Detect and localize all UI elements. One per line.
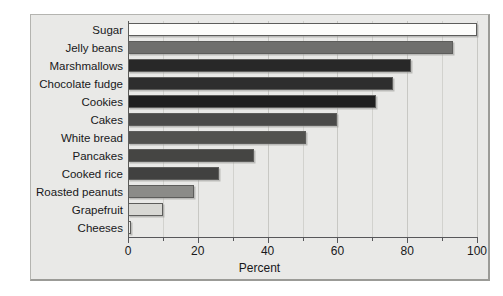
- x-tick-label: 80: [387, 244, 427, 258]
- category-label-white-bread: White bread: [0, 129, 123, 147]
- bar-row: [128, 165, 477, 183]
- x-tick-label: 0: [108, 244, 148, 258]
- x-tick-label: 100: [457, 244, 497, 258]
- category-label-marshmallows: Marshmallows: [0, 57, 123, 75]
- bar-row: [128, 75, 477, 93]
- x-tick-label: 60: [317, 244, 357, 258]
- x-tick-minor: [372, 237, 373, 241]
- bar-cookies: [128, 95, 376, 108]
- bar-row: [128, 93, 477, 111]
- bar-grapefruit: [128, 203, 163, 216]
- x-tick-major: [268, 237, 269, 243]
- category-label-chocolate-fudge: Chocolate fudge: [0, 75, 123, 93]
- gridline-major: [477, 21, 478, 237]
- x-tick-minor: [442, 237, 443, 241]
- category-label-cakes: Cakes: [0, 111, 123, 129]
- category-label-sugar: Sugar: [0, 21, 123, 39]
- plot-area: [128, 21, 477, 237]
- category-label-pancakes: Pancakes: [0, 147, 123, 165]
- category-label-cooked-rice: Cooked rice: [0, 165, 123, 183]
- x-tick-major: [128, 237, 129, 243]
- bar-chocolate-fudge: [128, 77, 393, 90]
- bar-row: [128, 147, 477, 165]
- bar-row: [128, 111, 477, 129]
- category-label-cheeses: Cheeses: [0, 219, 123, 237]
- bar-row: [128, 57, 477, 75]
- bar-row: [128, 201, 477, 219]
- x-tick-major: [477, 237, 478, 243]
- bar-row: [128, 21, 477, 39]
- x-tick-minor: [233, 237, 234, 241]
- x-tick-label: 40: [248, 244, 288, 258]
- bar-marshmallows: [128, 59, 411, 72]
- bar-row: [128, 183, 477, 201]
- category-axis-labels: SugarJelly beansMarshmallowsChocolate fu…: [0, 21, 123, 237]
- x-tick-major: [337, 237, 338, 243]
- bar-row: [128, 129, 477, 147]
- x-tick-label: 20: [178, 244, 218, 258]
- bar-row: [128, 219, 477, 237]
- bar-roasted-peanuts: [128, 185, 194, 198]
- category-label-jelly-beans: Jelly beans: [0, 39, 123, 57]
- category-label-roasted-peanuts: Roasted peanuts: [0, 183, 123, 201]
- x-axis-title: Percent: [31, 261, 488, 275]
- bar-jelly-beans: [128, 41, 453, 54]
- x-tick-major: [407, 237, 408, 243]
- bar-white-bread: [128, 131, 306, 144]
- bar-cheeses: [128, 221, 131, 234]
- bar-sugar: [128, 23, 477, 36]
- bar-cakes: [128, 113, 337, 126]
- x-tick-minor: [163, 237, 164, 241]
- bar-pancakes: [128, 149, 254, 162]
- bar-cooked-rice: [128, 167, 219, 180]
- x-tick-major: [198, 237, 199, 243]
- x-tick-minor: [303, 237, 304, 241]
- category-label-cookies: Cookies: [0, 93, 123, 111]
- bar-row: [128, 39, 477, 57]
- category-label-grapefruit: Grapefruit: [0, 201, 123, 219]
- chart-frame: SugarJelly beansMarshmallowsChocolate fu…: [30, 14, 490, 281]
